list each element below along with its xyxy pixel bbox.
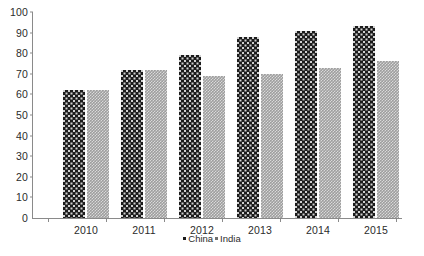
legend-item-india[interactable]: India xyxy=(215,234,241,244)
bar-group-2011: 2011 xyxy=(115,12,173,218)
legend-swatch-icon xyxy=(183,237,186,240)
x-tick-mark xyxy=(106,218,107,222)
bars-layer: 2010 2011 2012 2013 xyxy=(33,12,402,218)
bar-china-2011[interactable] xyxy=(121,70,143,218)
legend-label-india: India xyxy=(220,234,241,244)
bar-china-2014[interactable] xyxy=(295,31,317,218)
bar-india-2015[interactable] xyxy=(377,61,399,218)
bar-group-2015: 2015 xyxy=(347,12,405,218)
x-tick-mark xyxy=(48,218,49,222)
x-tick-mark xyxy=(222,218,223,222)
bar-india-2013[interactable] xyxy=(261,74,283,218)
bar-group-2014: 2014 xyxy=(289,12,347,218)
x-tick-mark-end xyxy=(396,218,397,222)
bar-group-2013: 2013 xyxy=(231,12,289,218)
bar-india-2011[interactable] xyxy=(145,70,167,218)
chart-legend: China India xyxy=(0,234,424,244)
x-tick-mark xyxy=(338,218,339,222)
bar-group-2012: 2012 xyxy=(173,12,231,218)
bar-india-2014[interactable] xyxy=(319,68,341,218)
bar-india-2010[interactable] xyxy=(87,90,109,218)
bar-china-2012[interactable] xyxy=(179,55,201,218)
x-tick-mark xyxy=(164,218,165,222)
bar-china-2015[interactable] xyxy=(353,26,375,218)
bar-china-2010[interactable] xyxy=(63,90,85,218)
bar-chart: 100 90 80 70 60 50 xyxy=(0,0,424,256)
x-tick-mark xyxy=(280,218,281,222)
legend-item-china[interactable]: China xyxy=(183,234,213,244)
legend-swatch-icon xyxy=(215,237,218,240)
bar-group-2010: 2010 xyxy=(57,12,115,218)
legend-label-china: China xyxy=(188,234,213,244)
y-tick-label: 0 xyxy=(22,212,33,224)
bar-china-2013[interactable] xyxy=(237,37,259,218)
plot-area: 100 90 80 70 60 50 xyxy=(32,12,402,219)
bar-india-2012[interactable] xyxy=(203,76,225,218)
